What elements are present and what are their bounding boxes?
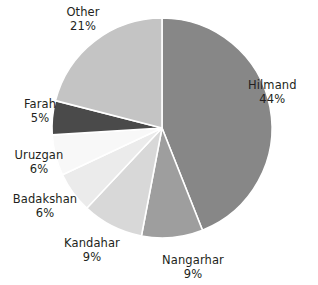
pie-label-uruzgan-value: 6% bbox=[6, 162, 72, 176]
pie-label-uruzgan-name: Uruzgan bbox=[6, 148, 72, 162]
pie-label-uruzgan: Uruzgan 6% bbox=[6, 148, 72, 176]
pie-label-hilmand-value: 44% bbox=[248, 92, 297, 106]
pie-label-farah-value: 5% bbox=[14, 111, 66, 125]
pie-label-badakshan-value: 6% bbox=[6, 206, 84, 220]
pie-label-farah-name: Farah bbox=[14, 97, 66, 111]
pie-label-kandahar-name: Kandahar bbox=[52, 236, 132, 250]
pie-label-badakshan-name: Badakshan bbox=[6, 192, 84, 206]
pie-label-other-name: Other bbox=[57, 5, 109, 19]
pie-chart: Hilmand 44% Nangarhar 9% Kandahar 9% Bad… bbox=[0, 0, 318, 285]
pie-label-nangarhar-name: Nangarhar bbox=[150, 253, 236, 267]
pie-slice-group bbox=[52, 18, 272, 238]
pie-label-hilmand-name: Hilmand bbox=[248, 78, 297, 92]
pie-label-kandahar: Kandahar 9% bbox=[52, 236, 132, 264]
pie-label-kandahar-value: 9% bbox=[52, 250, 132, 264]
pie-label-nangarhar-value: 9% bbox=[150, 267, 236, 281]
pie-label-other: Other 21% bbox=[57, 5, 109, 33]
pie-label-farah: Farah 5% bbox=[14, 97, 66, 125]
pie-label-other-value: 21% bbox=[57, 19, 109, 33]
pie-label-badakshan: Badakshan 6% bbox=[6, 192, 84, 220]
pie-chart-canvas bbox=[0, 0, 318, 285]
pie-label-nangarhar: Nangarhar 9% bbox=[150, 253, 236, 281]
pie-label-hilmand: Hilmand 44% bbox=[248, 78, 297, 106]
